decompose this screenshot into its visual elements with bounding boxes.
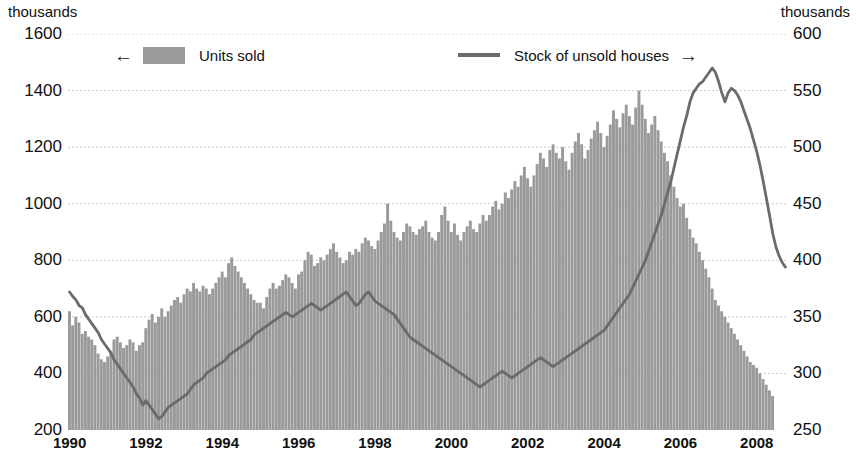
bar <box>647 133 650 430</box>
x-axis-tick-label: 2008 <box>727 434 787 451</box>
bar <box>428 232 431 430</box>
bar <box>510 190 513 430</box>
bar <box>679 207 682 430</box>
bar <box>160 308 163 430</box>
bar <box>332 243 335 430</box>
bar <box>348 252 351 430</box>
left-axis-unit-label: thousands <box>8 3 77 20</box>
bar <box>587 150 590 430</box>
bar <box>720 311 723 430</box>
bar <box>469 221 472 430</box>
bar <box>682 204 685 430</box>
bar <box>765 385 768 430</box>
bar <box>746 356 749 430</box>
bar <box>109 351 112 430</box>
x-axis-tick-label: 1992 <box>116 434 176 451</box>
bar <box>211 289 214 430</box>
bar <box>351 255 354 430</box>
left-axis-tick-label: 1200 <box>4 138 62 155</box>
bar <box>504 192 507 430</box>
bar <box>742 351 745 430</box>
bar <box>291 283 294 430</box>
bar <box>259 303 262 430</box>
bar <box>494 201 497 430</box>
bar <box>167 311 170 430</box>
bar <box>294 289 297 430</box>
bar <box>622 113 625 430</box>
bar <box>590 139 593 430</box>
bar <box>399 240 402 430</box>
bar <box>599 133 602 430</box>
bar <box>342 263 345 430</box>
x-axis-tick-label: 1994 <box>192 434 252 451</box>
bar <box>631 125 634 430</box>
bar <box>412 232 415 430</box>
bar <box>644 119 647 430</box>
bar <box>567 170 570 430</box>
bar <box>195 289 198 430</box>
right-axis-tick-label: 250 <box>793 421 855 438</box>
bar <box>672 187 675 430</box>
bar <box>660 141 663 430</box>
bar <box>701 260 704 430</box>
bar <box>491 207 494 430</box>
bar <box>380 232 383 430</box>
bar <box>497 209 500 430</box>
bar <box>532 175 535 430</box>
bar <box>692 238 695 430</box>
bar <box>447 221 450 430</box>
x-axis-tick-label: 2002 <box>498 434 558 451</box>
bar <box>405 224 408 430</box>
bar <box>205 289 208 430</box>
bar <box>688 229 691 430</box>
bar <box>593 130 596 430</box>
bar <box>456 235 459 430</box>
bar <box>634 108 637 430</box>
bar <box>119 342 122 430</box>
bar <box>386 204 389 430</box>
bar <box>148 320 151 430</box>
bar <box>256 303 259 430</box>
bar <box>307 252 310 430</box>
bar <box>284 274 287 430</box>
bar <box>695 243 698 430</box>
bar <box>513 181 516 430</box>
bar <box>727 323 730 430</box>
bar <box>393 232 396 430</box>
bar <box>663 153 666 430</box>
bar <box>377 240 380 430</box>
bar <box>208 294 211 430</box>
left-axis-tick-label: 1000 <box>4 195 62 212</box>
chart-legend: ← Units sold Stock of unsold houses → <box>0 0 856 30</box>
bar <box>240 277 243 430</box>
bar <box>723 317 726 430</box>
right-axis-tick-label: 450 <box>793 195 855 212</box>
x-axis-tick-label: 2000 <box>421 434 481 451</box>
bar <box>650 125 653 430</box>
bar <box>558 158 561 430</box>
bar <box>221 272 224 430</box>
bar <box>335 252 338 430</box>
bar <box>90 339 93 430</box>
bar <box>466 226 469 430</box>
bar <box>358 252 361 430</box>
bar <box>389 221 392 430</box>
bar <box>657 130 660 430</box>
right-axis-unit-label: thousands <box>781 3 850 20</box>
bar <box>424 221 427 430</box>
bar <box>768 390 771 430</box>
bar <box>561 147 564 430</box>
right-axis-tick-label: 550 <box>793 82 855 99</box>
bar <box>711 289 714 430</box>
bar <box>74 317 77 430</box>
bar <box>536 164 539 430</box>
x-axis-tick-label: 1996 <box>269 434 329 451</box>
bar <box>71 325 74 430</box>
bar <box>202 286 205 430</box>
bar <box>310 255 313 430</box>
x-axis-tick-label: 1998 <box>345 434 405 451</box>
bar <box>345 260 348 430</box>
bar <box>227 263 230 430</box>
bar <box>739 345 742 430</box>
bar <box>628 116 631 430</box>
